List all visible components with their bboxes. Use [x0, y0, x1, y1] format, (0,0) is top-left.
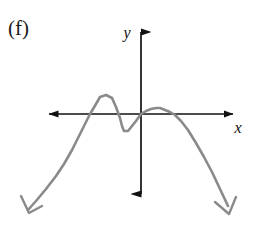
y-axis-label: y [121, 24, 131, 42]
polynomial-curve [28, 95, 228, 210]
figure-container: (f) y x [0, 0, 259, 239]
x-axis-label: x [233, 119, 241, 136]
graph-plot: y x [0, 0, 259, 239]
